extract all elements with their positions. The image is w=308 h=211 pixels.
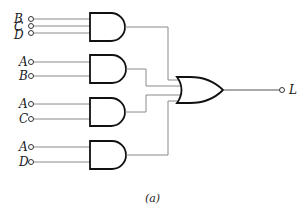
input-terminal-a[interactable]	[29, 102, 34, 107]
input-label-d: D	[18, 155, 29, 169]
input-terminal-d[interactable]	[29, 31, 34, 36]
input-label-d: D	[13, 28, 24, 42]
input-terminal-a[interactable]	[29, 60, 34, 65]
output-terminal-l[interactable]	[280, 88, 285, 93]
and-gate-4: A D	[18, 140, 126, 169]
interconnect-wires	[125, 27, 188, 155]
and-gate-shape	[90, 55, 126, 83]
wire-and4-to-or	[126, 101, 185, 155]
input-label-c: C	[19, 112, 28, 126]
and-gate-shape	[90, 13, 125, 41]
input-terminal-b[interactable]	[29, 74, 34, 79]
and-gate-1: B C D	[13, 12, 125, 42]
and-gate-shape	[90, 98, 125, 126]
input-terminal-b[interactable]	[29, 17, 34, 22]
input-label-a: A	[18, 97, 28, 111]
input-terminal-d[interactable]	[29, 160, 34, 165]
and-gate-shape	[90, 141, 126, 169]
and-gate-3: A C	[18, 97, 125, 126]
and-gate-2: A B	[18, 55, 126, 83]
input-terminal-a[interactable]	[29, 145, 34, 150]
output-label-l: L	[288, 83, 297, 97]
input-terminal-c[interactable]	[29, 117, 34, 122]
or-gate-shape	[177, 77, 223, 103]
input-label-a: A	[18, 55, 28, 69]
figure-caption: (a)	[145, 192, 160, 205]
or-gate: L	[177, 77, 297, 103]
wire-and1-to-or	[125, 27, 185, 80]
input-label-b: B	[18, 69, 28, 83]
logic-circuit-diagram: B C D A B A C A D	[0, 0, 308, 211]
input-terminal-c[interactable]	[29, 24, 34, 29]
input-label-a: A	[18, 140, 28, 154]
